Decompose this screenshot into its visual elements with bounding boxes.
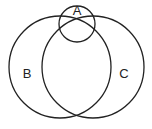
label-c: C [119, 66, 128, 81]
label-b: B [23, 66, 32, 81]
venn-diagram: A B C [0, 0, 152, 129]
label-a: A [73, 3, 82, 18]
